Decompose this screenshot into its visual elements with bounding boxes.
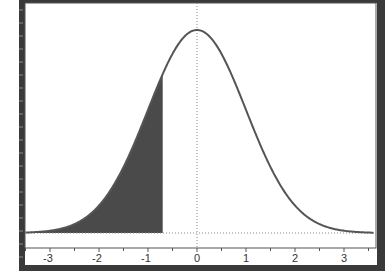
x-tick-label: 2 bbox=[292, 252, 298, 264]
x-tick-label: -3 bbox=[43, 252, 53, 264]
x-tick-label: 0 bbox=[194, 252, 200, 264]
x-tick-label: -1 bbox=[141, 252, 151, 264]
x-tick-label: 1 bbox=[243, 252, 249, 264]
x-tick-label: 3 bbox=[341, 252, 347, 264]
normal-distribution-chart: -3-2-10123 bbox=[0, 0, 385, 271]
x-tick-label: -2 bbox=[92, 252, 102, 264]
